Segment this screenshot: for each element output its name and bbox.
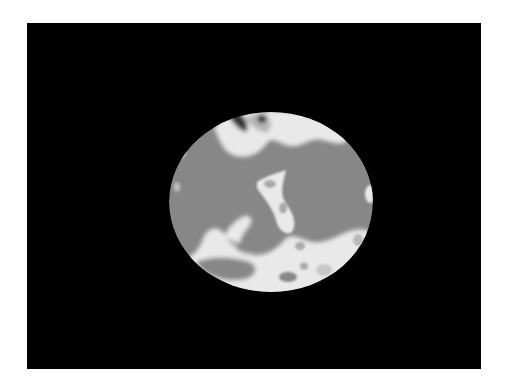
ellipse-region	[160, 110, 380, 300]
reconstruction-image	[0, 0, 505, 391]
